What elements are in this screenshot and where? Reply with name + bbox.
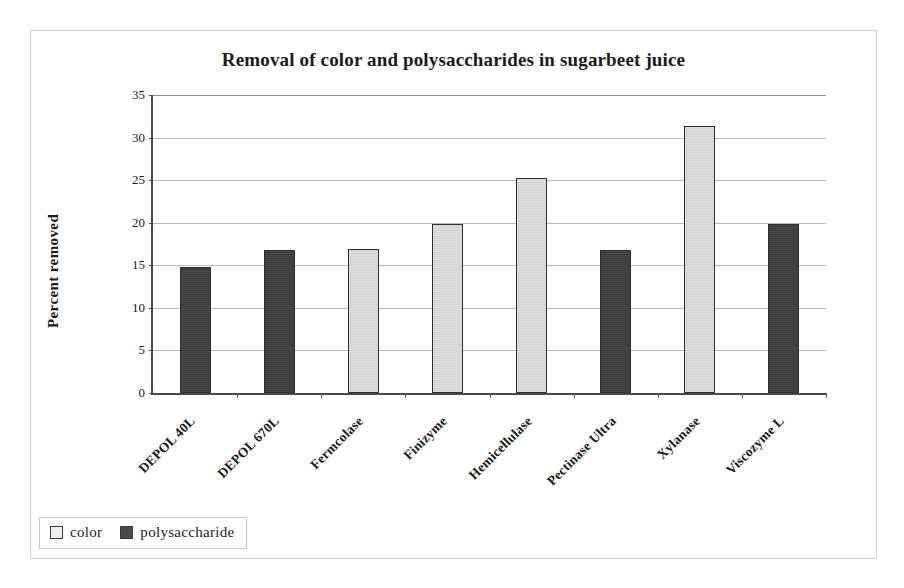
chart-legend: colorpolysaccharide (39, 517, 247, 549)
bar (600, 250, 631, 393)
x-axis-tick-mark (237, 393, 238, 398)
bar (180, 267, 211, 393)
y-axis-tick-mark (149, 223, 153, 224)
y-axis-tick-mark (149, 95, 153, 96)
y-axis-tick-mark (149, 308, 153, 309)
x-axis-tick-mark (658, 393, 659, 398)
x-axis-tick-mark (405, 393, 406, 398)
x-axis-tick-mark (826, 393, 827, 398)
gridline (153, 308, 826, 309)
plot-area: 05101520253035 (151, 95, 826, 395)
bar (348, 249, 379, 393)
gridline (153, 223, 826, 224)
legend-entry: color (50, 524, 102, 541)
x-axis-tick-mark (742, 393, 743, 398)
gridline (153, 95, 826, 96)
chart-frame: Removal of color and polysaccharides in … (30, 30, 877, 559)
legend-label: color (70, 524, 102, 541)
gridline (153, 180, 826, 181)
y-axis-tick-label: 35 (132, 87, 145, 103)
y-axis-tick-label: 0 (139, 385, 146, 401)
y-axis-tick-mark (149, 393, 153, 394)
y-axis-tick-mark (149, 265, 153, 266)
y-axis-tick-label: 15 (132, 257, 145, 273)
bar (684, 126, 715, 393)
y-axis-title: Percent removed (45, 161, 69, 381)
bar (432, 224, 463, 393)
x-axis-tick-mark (574, 393, 575, 398)
bar (516, 178, 547, 393)
y-axis-tick-label: 25 (132, 172, 145, 188)
y-axis-tick-mark (149, 350, 153, 351)
x-axis-tick-mark (321, 393, 322, 398)
legend-entry: polysaccharide (120, 524, 234, 541)
chart-title: Removal of color and polysaccharides in … (31, 49, 876, 71)
gridline (153, 350, 826, 351)
x-axis-category-label: DEPOL 40L (0, 413, 199, 588)
dark-square-swatch (120, 526, 133, 539)
bar (768, 224, 799, 393)
light-square-swatch (50, 526, 63, 539)
y-axis-tick-label: 30 (132, 130, 145, 146)
legend-label: polysaccharide (140, 524, 234, 541)
y-axis-tick-mark (149, 180, 153, 181)
y-axis-tick-label: 5 (139, 342, 146, 358)
gridline (153, 265, 826, 266)
gridline (153, 138, 826, 139)
y-axis-tick-label: 10 (132, 300, 145, 316)
bar (264, 250, 295, 393)
y-axis-tick-label: 20 (132, 215, 145, 231)
x-axis-tick-mark (490, 393, 491, 398)
y-axis-tick-mark (149, 138, 153, 139)
